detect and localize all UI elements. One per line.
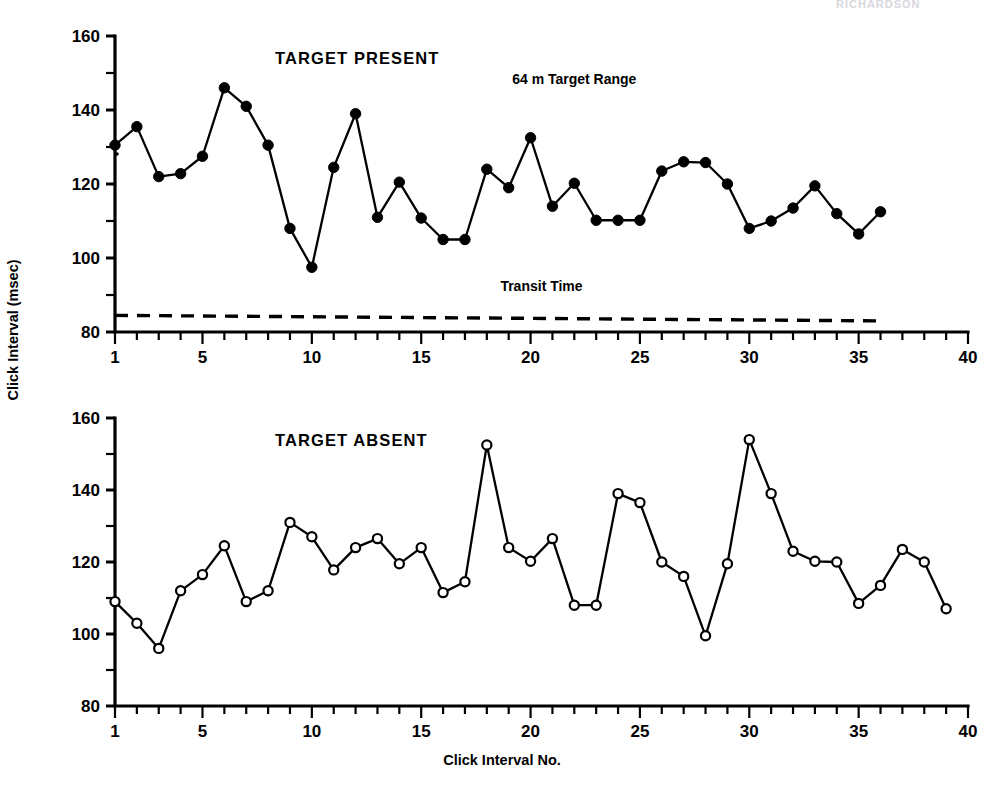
x-tick-label: 35 (849, 722, 868, 741)
x-tick-label: 20 (521, 722, 540, 741)
x-tick-label: 5 (198, 348, 207, 367)
data-point (592, 601, 601, 610)
data-point (810, 181, 820, 191)
transit-time-reference-line (115, 315, 881, 321)
data-point (853, 229, 863, 239)
y-tick-label: 80 (81, 697, 100, 716)
chart-svg: 801001201401601510152025303540TARGET PRE… (0, 0, 1005, 794)
panel-bottom-title: TARGET ABSENT (275, 431, 428, 449)
data-point (285, 518, 294, 527)
y-tick-label: 160 (72, 27, 100, 46)
y-tick-label: 160 (72, 409, 100, 428)
x-tick-label: 30 (740, 348, 759, 367)
data-point (460, 234, 470, 244)
x-tick-label: 35 (849, 348, 868, 367)
data-point (942, 604, 951, 613)
data-point (438, 234, 448, 244)
panel-bottom-series-line (115, 440, 946, 649)
annotation-0: 64 m Target Range (512, 71, 636, 87)
data-point (504, 543, 513, 552)
data-point (591, 215, 601, 225)
data-point (395, 559, 404, 568)
y-axis-title: Click Interval (msec) (5, 259, 21, 400)
data-point (744, 223, 754, 233)
data-point (373, 534, 382, 543)
panel-top-title: TARGET PRESENT (275, 49, 440, 67)
data-point (460, 577, 469, 586)
data-point (766, 216, 776, 226)
y-tick-label: 100 (72, 625, 100, 644)
data-point (613, 489, 622, 498)
data-point (175, 168, 185, 178)
data-point (241, 101, 251, 111)
data-point (569, 178, 579, 188)
data-point (307, 262, 317, 272)
data-point (657, 557, 666, 566)
x-tick-label: 5 (198, 722, 207, 741)
data-point (482, 440, 491, 449)
data-point (613, 215, 623, 225)
x-tick-label: 10 (302, 722, 321, 741)
data-point (394, 177, 404, 187)
y-tick-label: 80 (81, 323, 100, 342)
data-point (220, 541, 229, 550)
data-point (351, 543, 360, 552)
data-point (679, 572, 688, 581)
data-point (263, 140, 273, 150)
data-point (570, 601, 579, 610)
data-point (657, 166, 667, 176)
data-point (242, 597, 251, 606)
data-point (438, 588, 447, 597)
data-point (788, 547, 797, 556)
data-point (329, 565, 338, 574)
y-tick-label: 100 (72, 249, 100, 268)
data-point (920, 557, 929, 566)
data-point (285, 223, 295, 233)
x-tick-label: 20 (521, 348, 540, 367)
data-point (154, 171, 164, 181)
data-point (767, 489, 776, 498)
x-tick-label: 25 (630, 348, 649, 367)
data-point (745, 435, 754, 444)
x-tick-label: 30 (740, 722, 759, 741)
y-tick-label: 140 (72, 101, 100, 120)
data-point (482, 164, 492, 174)
data-point (132, 619, 141, 628)
data-point (832, 208, 842, 218)
data-point (307, 532, 316, 541)
data-point (132, 121, 142, 131)
data-point (700, 157, 710, 167)
data-point (722, 179, 732, 189)
x-tick-label: 40 (959, 722, 978, 741)
y-tick-label: 120 (72, 553, 100, 572)
page-running-header: RICHARDSON (836, 0, 986, 10)
data-point (197, 151, 207, 161)
y-tick-label: 140 (72, 481, 100, 500)
data-point (372, 212, 382, 222)
x-tick-label: 15 (412, 348, 431, 367)
data-point (526, 557, 535, 566)
data-point (417, 543, 426, 552)
data-point (110, 140, 120, 150)
data-point (723, 559, 732, 568)
data-point (876, 581, 885, 590)
data-point (503, 183, 513, 193)
data-point (810, 557, 819, 566)
x-tick-label: 1 (110, 348, 119, 367)
data-point (219, 83, 229, 93)
data-point (176, 586, 185, 595)
data-point (701, 631, 710, 640)
data-point (678, 157, 688, 167)
data-point (875, 207, 885, 217)
x-axis-title: Click Interval No. (443, 752, 561, 768)
data-point (788, 203, 798, 213)
annotation-1: Transit Time (500, 278, 582, 294)
data-point (635, 215, 645, 225)
data-point (110, 597, 119, 606)
data-point (854, 599, 863, 608)
x-tick-label: 25 (630, 722, 649, 741)
y-tick-label: 120 (72, 175, 100, 194)
data-point (416, 213, 426, 223)
data-point (154, 644, 163, 653)
data-point (525, 133, 535, 143)
